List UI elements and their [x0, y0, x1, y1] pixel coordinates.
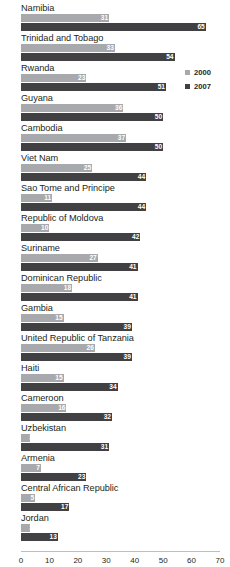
- bar-2000: [21, 44, 115, 52]
- category-label: Suriname: [21, 242, 230, 254]
- bar-2007: [21, 113, 163, 121]
- legend-label: 2007: [194, 82, 211, 91]
- category-label: Central African Republic: [21, 482, 230, 494]
- bar-row: 25: [21, 164, 230, 172]
- bar-2007: [21, 53, 175, 61]
- bar-row: 31: [21, 14, 230, 22]
- x-axis-ticks: 010203040506070: [21, 556, 220, 567]
- bar-value-label: 11: [40, 194, 51, 202]
- bar-row: 3: [21, 434, 230, 442]
- bar-2007: [21, 83, 166, 91]
- bar-group: Jordan313: [0, 512, 230, 541]
- category-label: United Republic of Tanzania: [21, 332, 230, 344]
- bar-value-label: 18: [60, 284, 71, 292]
- bar-row: 41: [21, 263, 230, 271]
- bar-group: Gambia1539: [0, 302, 230, 331]
- bar-group: Guyana3650: [0, 92, 230, 121]
- bar-group: United Republic of Tanzania2639: [0, 332, 230, 361]
- bar-row: 15: [21, 374, 230, 382]
- bar-value-label: 7: [29, 464, 40, 472]
- bar-2000: [21, 14, 109, 22]
- bar-row: 5: [21, 494, 230, 502]
- bar-row: 50: [21, 113, 230, 121]
- bar-value-label: 16: [54, 404, 65, 412]
- bar-value-label: 65: [194, 23, 205, 31]
- x-tick-label: 70: [216, 556, 225, 565]
- legend-label: 2000: [194, 68, 211, 77]
- bar-group: Central African Republic517: [0, 482, 230, 511]
- bar-value-label: 44: [134, 173, 145, 181]
- bar-value-label: 3: [22, 524, 33, 532]
- bar-row: 27: [21, 254, 230, 262]
- bar-2007: [21, 233, 140, 241]
- bar-row: 42: [21, 233, 230, 241]
- legend-item[interactable]: 2000: [185, 68, 211, 77]
- bar-value-label: 26: [83, 344, 94, 352]
- chart-legend: 20002007: [185, 68, 211, 96]
- bar-row: 39: [21, 353, 230, 361]
- category-label: Armenia: [21, 452, 230, 464]
- bar-row: 23: [21, 473, 230, 481]
- category-label: Cambodia: [21, 122, 230, 134]
- legend-swatch-icon: [185, 84, 190, 89]
- bar-value-label: 44: [134, 203, 145, 211]
- bar-row: 3: [21, 524, 230, 532]
- x-tick-label: 10: [45, 556, 54, 565]
- bar-row: 26: [21, 344, 230, 352]
- bar-2007: [21, 383, 118, 391]
- x-tick-label: 50: [159, 556, 168, 565]
- category-label: Cameroon: [21, 392, 230, 404]
- x-axis-line: [21, 551, 220, 552]
- bar-2007: [21, 353, 132, 361]
- bar-row: 32: [21, 413, 230, 421]
- category-label: Dominican Republic: [21, 272, 230, 284]
- category-label: Sao Tome and Principe: [21, 182, 230, 194]
- bar-value-label: 39: [120, 323, 131, 331]
- bar-row: 34: [21, 383, 230, 391]
- category-label: Gambia: [21, 302, 230, 314]
- legend-item[interactable]: 2007: [185, 82, 211, 91]
- bar-row: 41: [21, 293, 230, 301]
- bar-value-label: 10: [37, 224, 48, 232]
- bar-row: 13: [21, 533, 230, 541]
- bar-value-label: 27: [86, 254, 97, 262]
- bar-group: Dominican Republic1841: [0, 272, 230, 301]
- bar-row: 44: [21, 203, 230, 211]
- category-label: Trinidad and Tobago: [21, 32, 230, 44]
- bar-2007: [21, 443, 109, 451]
- bar-value-label: 34: [106, 383, 117, 391]
- bar-2000: [21, 104, 123, 112]
- bar-value-label: 17: [57, 503, 68, 511]
- bar-value-label: 13: [46, 533, 57, 541]
- x-tick-label: 30: [102, 556, 111, 565]
- bar-value-label: 41: [126, 293, 137, 301]
- bar-value-label: 23: [74, 473, 85, 481]
- bar-2007: [21, 293, 138, 301]
- bar-2007: [21, 173, 146, 181]
- bar-value-label: 15: [52, 374, 63, 382]
- bar-row: 37: [21, 134, 230, 142]
- bar-group: Namibia3165: [0, 2, 230, 31]
- bar-value-label: 32: [100, 413, 111, 421]
- bar-row: 7: [21, 464, 230, 472]
- bar-value-label: 50: [151, 113, 162, 121]
- bar-row: 54: [21, 53, 230, 61]
- bar-value-label: 31: [97, 443, 108, 451]
- legend-swatch-icon: [185, 70, 190, 75]
- bar-row: 18: [21, 284, 230, 292]
- bar-value-label: 36: [111, 104, 122, 112]
- bar-2007: [21, 323, 132, 331]
- x-tick-label: 0: [19, 556, 23, 565]
- bar-row: 10: [21, 224, 230, 232]
- bar-2007: [21, 23, 206, 31]
- category-label: Republic of Moldova: [21, 212, 230, 224]
- x-tick-label: 60: [187, 556, 196, 565]
- category-label: Haiti: [21, 362, 230, 374]
- bar-row: 17: [21, 503, 230, 511]
- bar-row: 36: [21, 104, 230, 112]
- bar-row: 16: [21, 404, 230, 412]
- category-label: Viet Nam: [21, 152, 230, 164]
- bar-group: Republic of Moldova1042: [0, 212, 230, 241]
- bar-value-label: 33: [103, 44, 114, 52]
- bar-group: Uzbekistan331: [0, 422, 230, 451]
